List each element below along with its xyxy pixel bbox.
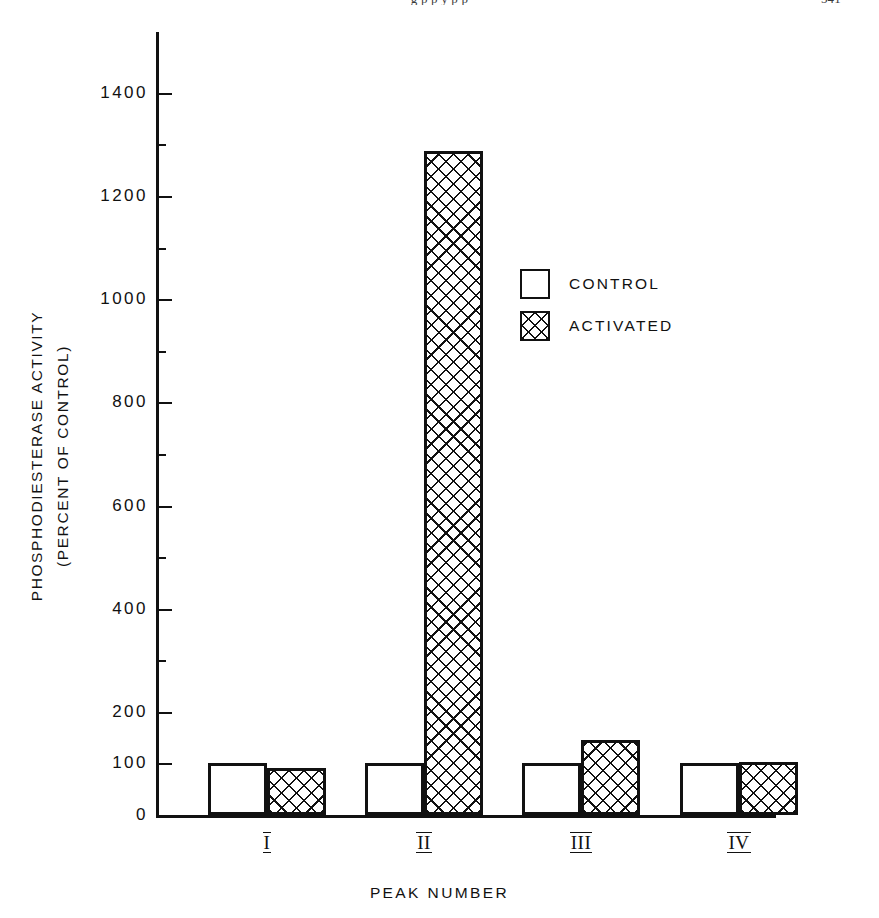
x-tick-label-I: I	[227, 832, 307, 854]
crosshatch-square-swatch-icon	[520, 311, 550, 341]
figure-bar-chart: g p p y p p 541 010020040060080010001200…	[0, 0, 879, 918]
x-tick-label-II: II	[384, 832, 464, 854]
roman-numeral-I: I	[263, 832, 272, 853]
roman-numeral-IV: IV	[727, 832, 750, 853]
legend-label-control: CONTROL	[569, 275, 660, 293]
bar-control-peak-IV	[680, 763, 739, 815]
bar-control-peak-III	[522, 763, 581, 815]
bars-group	[0, 0, 879, 918]
x-axis-title: PEAK NUMBER	[0, 884, 879, 902]
legend-entry-control: CONTROL	[520, 263, 750, 305]
x-tick-label-IV: IV	[699, 832, 779, 854]
bar-activated-peak-IV	[739, 762, 798, 815]
open-square-swatch-icon	[520, 269, 550, 299]
x-tick-label-III: III	[541, 832, 621, 854]
bar-activated-peak-III	[581, 740, 640, 815]
bar-activated-peak-I	[267, 768, 326, 815]
legend: CONTROL ACTIVATED	[520, 263, 750, 347]
roman-numeral-II: II	[416, 832, 432, 853]
legend-entry-activated: ACTIVATED	[520, 305, 750, 347]
legend-label-activated: ACTIVATED	[569, 317, 673, 335]
bar-control-peak-II	[365, 763, 424, 815]
bar-control-peak-I	[208, 763, 267, 815]
roman-numeral-III: III	[570, 832, 592, 853]
bar-activated-peak-II	[424, 151, 483, 815]
